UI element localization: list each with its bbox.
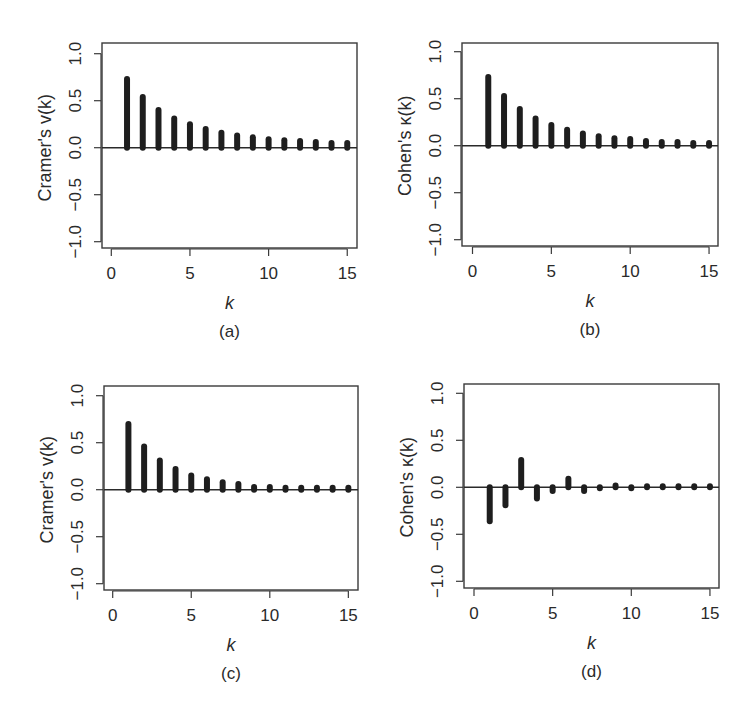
y-tick-label: −0.5 xyxy=(426,176,445,210)
panel-caption: (b) xyxy=(580,320,601,339)
y-tick-label: 0.0 xyxy=(68,478,87,502)
y-axis-title: Cohen's κ(k) xyxy=(395,95,415,195)
x-tick-label: 15 xyxy=(700,262,719,281)
x-tick-label: 10 xyxy=(621,262,640,281)
panel-b: −1.0−0.50.00.51.0Cohen's κ(k)051015k(b) xyxy=(395,40,719,339)
y-tick-label: 0.0 xyxy=(428,475,447,499)
y-tick-label: −0.5 xyxy=(428,518,447,552)
y-tick-label: −1.0 xyxy=(428,565,447,599)
x-axis-title: k xyxy=(225,293,235,313)
y-tick-label: −1.0 xyxy=(426,223,445,257)
x-tick-label: 5 xyxy=(547,262,556,281)
x-tick-label: 15 xyxy=(339,606,358,625)
x-axis-title: k xyxy=(227,635,237,655)
y-tick-label: 1.0 xyxy=(426,40,445,64)
x-tick-label: 0 xyxy=(468,262,477,281)
y-axis-title: Cramer's v(k) xyxy=(37,436,57,543)
figure-2x2-lag-plots: −1.0−0.50.00.51.0Cramer's v(k)051015k(a)… xyxy=(0,0,754,715)
y-tick-label: −1.0 xyxy=(66,225,85,259)
y-tick-label: 0.5 xyxy=(66,89,85,113)
x-tick-label: 10 xyxy=(259,264,278,283)
x-tick-label: 15 xyxy=(700,604,719,623)
panel-caption: (c) xyxy=(221,664,241,683)
y-tick-label: 0.0 xyxy=(66,136,85,160)
x-tick-label: 10 xyxy=(260,606,279,625)
y-tick-label: −0.5 xyxy=(66,178,85,212)
x-tick-label: 0 xyxy=(108,606,117,625)
y-axis-title: Cohen's κ(k) xyxy=(397,437,417,537)
panel-caption: (a) xyxy=(219,322,240,341)
y-tick-label: −1.0 xyxy=(68,567,87,601)
x-tick-label: 15 xyxy=(338,264,357,283)
y-tick-label: 0.5 xyxy=(428,428,447,452)
y-tick-label: 0.5 xyxy=(426,87,445,111)
y-tick-label: 0.0 xyxy=(426,134,445,158)
y-tick-label: 0.5 xyxy=(68,431,87,455)
x-tick-label: 5 xyxy=(185,264,194,283)
x-axis-title: k xyxy=(586,291,596,311)
y-tick-label: 1.0 xyxy=(68,384,87,408)
panel-caption: (d) xyxy=(581,662,602,681)
x-tick-label: 10 xyxy=(622,604,641,623)
x-axis-title: k xyxy=(587,633,597,653)
x-tick-label: 5 xyxy=(548,604,557,623)
y-tick-label: 1.0 xyxy=(428,381,447,405)
panel-c: −1.0−0.50.00.51.0Cramer's v(k)051015k(c) xyxy=(37,384,358,683)
y-tick-label: −0.5 xyxy=(68,520,87,554)
panel-d: −1.0−0.50.00.51.0Cohen's κ(k)051015k(d) xyxy=(397,381,719,681)
y-axis-title: Cramer's v(k) xyxy=(35,94,55,201)
x-tick-label: 0 xyxy=(107,264,116,283)
panel-a: −1.0−0.50.00.51.0Cramer's v(k)051015k(a) xyxy=(35,42,357,341)
x-tick-label: 5 xyxy=(187,606,196,625)
y-tick-label: 1.0 xyxy=(66,42,85,66)
x-tick-label: 0 xyxy=(469,604,478,623)
